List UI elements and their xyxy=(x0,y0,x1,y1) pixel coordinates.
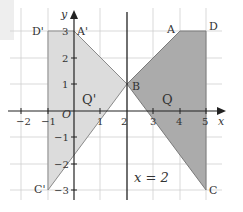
y-tick-label: −1 xyxy=(54,132,69,143)
x-tick-label: 5 xyxy=(202,116,208,127)
y-tick-label: −3 xyxy=(54,185,69,196)
vertex-label-a: A xyxy=(166,23,176,36)
y-tick-label: 3 xyxy=(62,26,68,37)
vertex-label-a-prime: A' xyxy=(76,25,88,38)
reflection-diagram: −2 −1 1 2 3 4 5 3 2 1 −1 −2 −3 y x O D' … xyxy=(0,0,243,212)
x-tick-label: 2 xyxy=(121,116,127,127)
y-axis-arrow-icon xyxy=(70,10,78,19)
vertex-label-c-prime: C' xyxy=(34,183,45,196)
x-tick-label: −2 xyxy=(16,116,31,127)
scan-artifact xyxy=(0,0,14,40)
vertex-label-b: B xyxy=(132,80,140,93)
region-label-q: Q xyxy=(162,92,173,107)
y-tick-label: −2 xyxy=(54,159,69,170)
vertex-label-d-prime: D' xyxy=(32,25,44,38)
x-tick-label: 4 xyxy=(176,116,182,127)
origin-label: O xyxy=(62,108,71,121)
region-label-q-prime: Q' xyxy=(82,92,96,107)
x-tick-label: 1 xyxy=(97,116,103,127)
vertex-label-d: D xyxy=(209,20,218,33)
vertex-label-c: C xyxy=(209,184,217,197)
x-tick-label: 3 xyxy=(150,116,156,127)
y-tick-label: 2 xyxy=(62,53,68,64)
mirror-line-label: x = 2 xyxy=(134,170,169,185)
x-axis-label: x xyxy=(218,115,225,128)
x-tick-label: −1 xyxy=(41,116,56,127)
y-axis-label: y xyxy=(60,8,68,21)
x-axis-arrow-icon xyxy=(217,107,226,115)
y-tick-label: 1 xyxy=(62,79,68,90)
